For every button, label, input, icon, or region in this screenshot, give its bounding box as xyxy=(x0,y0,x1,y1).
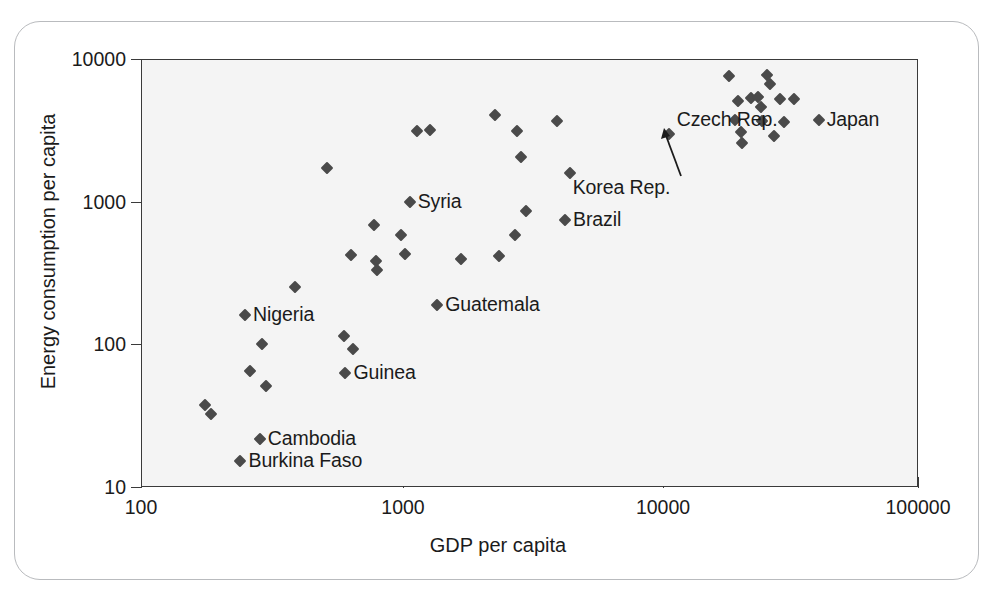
point-label-nigeria: Nigeria xyxy=(253,303,314,326)
point-label-brazil: Brazil xyxy=(573,207,621,230)
point-label-syria: Syria xyxy=(418,190,462,213)
point-labels-layer: NigeriaCambodiaBurkina FasoGuineaSyriaGu… xyxy=(0,0,996,597)
point-label-cambodia: Cambodia xyxy=(268,427,356,450)
figure-panel: 10000 1000 100 10 100 1000 10000 100000 … xyxy=(0,0,996,597)
point-label-korea-rep: Korea Rep. xyxy=(573,175,671,198)
point-label-guatemala: Guatemala xyxy=(445,292,540,315)
point-label-japan: Japan xyxy=(827,107,880,130)
point-label-guinea: Guinea xyxy=(353,360,415,383)
point-label-burkina-faso: Burkina Faso xyxy=(248,448,362,471)
point-label-czech-rep: Czech Rep. xyxy=(677,107,778,130)
